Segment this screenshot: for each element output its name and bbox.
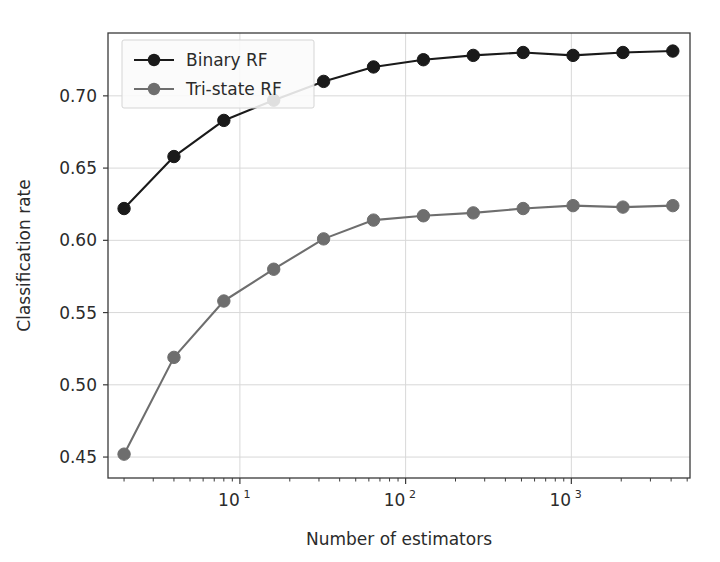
data-point-marker xyxy=(517,46,529,58)
x-tick-label-exponent: 3 xyxy=(575,488,582,501)
x-tick-label-exponent: 2 xyxy=(409,488,416,501)
chart-legend: Binary RFTri-state RF xyxy=(122,40,314,108)
y-tick-label: 0.50 xyxy=(59,375,97,395)
data-point-marker xyxy=(168,351,180,363)
data-point-marker xyxy=(567,49,579,61)
x-tick-label-mantissa: 10 xyxy=(384,490,406,510)
data-point-marker xyxy=(218,114,230,126)
data-point-marker xyxy=(317,75,329,87)
y-tick-label: 0.60 xyxy=(59,230,97,250)
data-point-marker xyxy=(218,295,230,307)
data-point-marker xyxy=(417,54,429,66)
data-point-marker xyxy=(467,49,479,61)
data-point-marker xyxy=(517,202,529,214)
data-point-marker xyxy=(367,214,379,226)
data-point-marker xyxy=(667,199,679,211)
data-point-marker xyxy=(168,150,180,162)
x-tick-label-mantissa: 10 xyxy=(550,490,572,510)
data-point-marker xyxy=(617,201,629,213)
data-point-marker xyxy=(417,210,429,222)
data-point-marker xyxy=(567,199,579,211)
data-point-marker xyxy=(617,46,629,58)
data-point-marker xyxy=(118,202,130,214)
data-point-marker xyxy=(268,263,280,275)
legend-marker-icon xyxy=(148,83,160,95)
data-point-marker xyxy=(367,61,379,73)
data-point-marker xyxy=(667,45,679,57)
y-tick-label: 0.55 xyxy=(59,303,97,323)
legend-marker-icon xyxy=(148,54,160,66)
y-tick-label: 0.70 xyxy=(59,86,97,106)
x-tick-label-mantissa: 10 xyxy=(218,490,240,510)
data-point-marker xyxy=(317,233,329,245)
y-tick-label: 0.45 xyxy=(59,447,97,467)
legend-label: Tri-state RF xyxy=(185,79,282,99)
data-point-marker xyxy=(467,207,479,219)
y-tick-label: 0.65 xyxy=(59,158,97,178)
x-axis-title: Number of estimators xyxy=(306,529,492,549)
data-point-marker xyxy=(118,448,130,460)
y-axis-title: Classification rate xyxy=(14,179,34,331)
classification-rate-line-chart: 0.450.500.550.600.650.70101102103 Number… xyxy=(0,0,720,562)
figure-canvas: 0.450.500.550.600.650.70101102103 Number… xyxy=(0,0,720,562)
legend-label: Binary RF xyxy=(186,50,268,70)
x-tick-label-exponent: 1 xyxy=(243,488,250,501)
